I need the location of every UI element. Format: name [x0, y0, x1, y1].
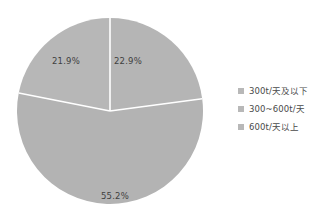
pie-chart-svg: [16, 17, 204, 205]
pie-chart-plot-area: 22.9% 55.2% 21.9%: [16, 17, 204, 205]
legend-item-300-600t[interactable]: 300~600t/天: [238, 100, 330, 118]
legend-item-600t-and-above[interactable]: 600t/天以上: [238, 118, 330, 136]
slice-value-label-300-600t: 55.2%: [101, 192, 129, 201]
legend-item-label: 600t/天以上: [249, 123, 299, 132]
legend-swatch-icon: [238, 106, 244, 112]
chart-legend: 300t/天及以下 300~600t/天 600t/天以上: [238, 82, 330, 136]
legend-swatch-icon: [238, 124, 244, 130]
legend-item-label: 300t/天及以下: [249, 87, 308, 96]
pie-chart-figure: 22.9% 55.2% 21.9% 300t/天及以下 300~600t/天 6…: [0, 0, 330, 222]
slice-value-label-600t-and-above: 21.9%: [52, 57, 80, 66]
legend-swatch-icon: [238, 88, 244, 94]
slice-value-label-300t-and-below: 22.9%: [114, 57, 142, 66]
legend-item-300t-and-below[interactable]: 300t/天及以下: [238, 82, 330, 100]
legend-item-label: 300~600t/天: [249, 105, 305, 114]
